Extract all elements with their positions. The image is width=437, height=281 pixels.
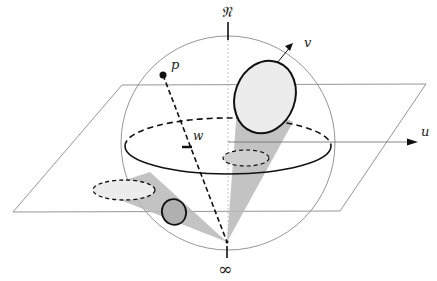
stereographic-projection-diagram: 𝔑 ∞ p v u w [0,0,437,281]
north-label: 𝔑 [221,3,233,21]
projection-plane [13,84,426,212]
w-label: w [193,129,204,143]
u-arrowhead[interactable] [407,139,418,146]
v-label: v [304,35,312,50]
projected-disk-lower-left [93,180,155,200]
point-infinity [226,241,229,244]
u-label: u [421,124,429,139]
v-arrowhead[interactable] [285,43,293,51]
projected-circle-inner [223,150,269,166]
p-label: p [171,57,180,72]
infinity-label: ∞ [218,259,232,279]
point-p[interactable] [160,72,167,79]
